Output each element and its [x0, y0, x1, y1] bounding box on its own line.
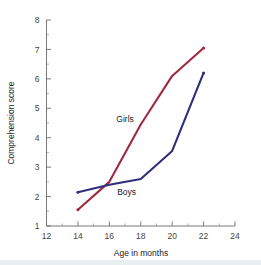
- series-point-boys: [76, 191, 79, 194]
- bottom-edge-band: [0, 260, 261, 265]
- y-tick-label: 7: [35, 45, 40, 55]
- y-tick-label: 8: [35, 15, 40, 25]
- chart-figure: 12141618202224 12345678 GirlsBoys Age in…: [0, 0, 261, 265]
- x-tick-label: 16: [105, 231, 115, 241]
- y-tick-label: 4: [35, 133, 40, 143]
- series-label-girls: Girls: [116, 114, 133, 124]
- y-tick-label: 3: [35, 162, 40, 172]
- y-tick-label: 6: [35, 74, 40, 84]
- x-axis-title: Age in months: [114, 248, 168, 258]
- x-tick-label: 14: [73, 231, 83, 241]
- x-tick-label: 18: [136, 231, 146, 241]
- y-tick-label: 2: [35, 192, 40, 202]
- y-tick-label: 5: [35, 103, 40, 113]
- y-axis-title: Comprehension score: [6, 81, 16, 164]
- x-tick-label: 20: [167, 231, 177, 241]
- x-tick-label: 12: [42, 231, 52, 241]
- series-point-girls: [76, 208, 79, 211]
- x-tick-label: 24: [230, 231, 240, 241]
- x-tick-label: 22: [199, 231, 209, 241]
- series-point-boys: [202, 71, 205, 74]
- y-tick-label: 1: [35, 221, 40, 231]
- series-label-boys: Boys: [117, 187, 136, 197]
- line-chart-plot: 12141618202224 12345678 GirlsBoys Age in…: [0, 0, 261, 265]
- series-point-girls: [202, 46, 205, 49]
